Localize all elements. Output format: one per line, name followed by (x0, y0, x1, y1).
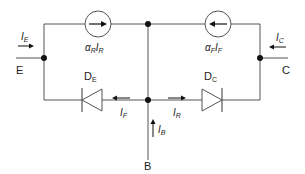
emitter-current-label: IE (21, 31, 29, 43)
arrow-left-icon (269, 45, 274, 50)
collector-current-label: IC (276, 32, 285, 44)
arrow-right-icon (29, 44, 34, 49)
junction-nodes (41, 21, 263, 103)
node-collector (257, 55, 263, 61)
current-source-reverse (85, 11, 111, 37)
collector-current-arrow (269, 45, 286, 50)
node-emitter (41, 55, 47, 61)
circuit-diagram: αRIR αFIF DE DC IE E (0, 0, 305, 174)
diode-emitter (82, 88, 102, 112)
node-base (145, 97, 151, 103)
source-forward-label: αFIF (205, 42, 223, 54)
reverse-current-label: IR (173, 107, 181, 119)
base-current-arrow (151, 119, 156, 137)
diode-emitter-label: DE (84, 70, 97, 83)
terminal-emitter: E (16, 64, 23, 76)
source-reverse-label: αRIR (85, 42, 104, 54)
current-source-forward (205, 11, 231, 37)
node-top (145, 21, 151, 27)
wires (16, 24, 288, 160)
forward-current-label: IF (120, 107, 128, 119)
diode-collector (202, 88, 222, 112)
emitter-current-arrow (18, 44, 34, 49)
terminal-collector: C (282, 64, 290, 76)
arrow-up-icon (151, 119, 156, 124)
diode-collector-label: DC (204, 70, 217, 83)
base-current-label: IB (158, 124, 166, 136)
terminal-base: B (144, 160, 151, 172)
